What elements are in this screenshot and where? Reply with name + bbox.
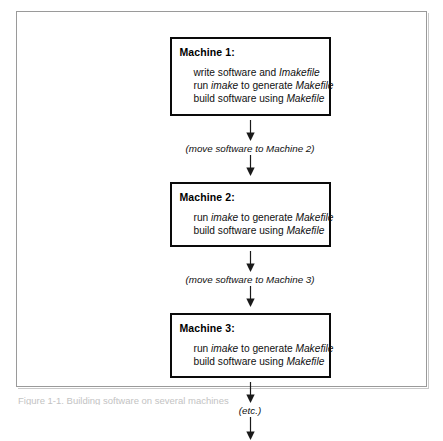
connector-3-label: (etc.) xyxy=(239,404,261,417)
connector-2-label: (move software to Machine 3) xyxy=(185,273,314,286)
connector-1: (move software to Machine 2) xyxy=(165,116,335,182)
machine-step: write software and Imakefile xyxy=(194,66,329,79)
arrow-down-icon xyxy=(245,286,256,308)
machine-step: build software using Makefile xyxy=(194,92,329,105)
machine-box-2: Machine 2: run imake to generate Makefil… xyxy=(170,182,331,247)
flowchart: Machine 1: write software and Imakefile … xyxy=(165,37,335,441)
machine-step: build software using Makefile xyxy=(194,224,329,237)
arrow-down-icon xyxy=(245,155,256,177)
machine-box-1: Machine 1: write software and Imakefile … xyxy=(170,37,331,116)
arrow-down-icon xyxy=(245,417,256,441)
machine-box-3: Machine 3: run imake to generate Makefil… xyxy=(170,313,331,378)
connector-1-label: (move software to Machine 2) xyxy=(185,142,314,155)
machine-step: build software using Makefile xyxy=(194,355,329,368)
arrow-down-icon xyxy=(245,120,256,142)
machine-step: run imake to generate Makefile xyxy=(194,79,329,92)
machine-box-3-title: Machine 3: xyxy=(172,321,329,335)
machine-box-1-title: Machine 1: xyxy=(172,45,329,59)
figure-caption-text: Figure 1-1. Building software on several… xyxy=(18,396,318,405)
machine-box-2-steps: run imake to generate Makefile build sof… xyxy=(172,204,329,237)
connector-2: (move software to Machine 3) xyxy=(165,247,335,313)
machine-step: run imake to generate Makefile xyxy=(194,342,329,355)
machine-box-1-steps: write software and Imakefile run imake t… xyxy=(172,59,329,106)
machine-box-3-steps: run imake to generate Makefile build sof… xyxy=(172,335,329,368)
machine-step: run imake to generate Makefile xyxy=(194,211,329,224)
figure-caption: Figure 1-1. Building software on several… xyxy=(18,396,318,405)
figure-frame: Machine 1: write software and Imakefile … xyxy=(16,11,427,387)
arrow-down-icon xyxy=(245,251,256,273)
machine-box-2-title: Machine 2: xyxy=(172,190,329,204)
connector-3: (etc.) xyxy=(165,378,335,441)
